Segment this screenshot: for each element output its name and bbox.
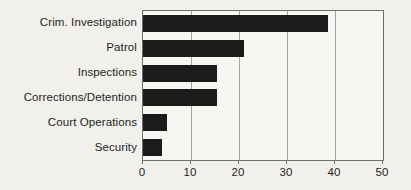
bar [143,40,244,57]
bar [143,89,217,106]
x-tick-mark [286,160,287,164]
x-tick-mark [142,160,143,164]
bar [143,65,217,82]
bar-row [143,61,383,86]
category-label: Inspections [0,60,137,85]
bar [143,114,167,131]
bar [143,15,328,32]
x-tick-mark [238,160,239,164]
category-label: Court Operations [0,109,137,134]
x-tick-mark [334,160,335,164]
x-tick-label: 20 [232,166,245,178]
bar-row [143,11,383,36]
bar-row [143,85,383,110]
category-label: Corrections/Detention [0,84,137,109]
horizontal-bar-chart: Crim. InvestigationPatrolInspectionsCorr… [0,0,411,190]
x-tick-mark [382,160,383,164]
category-label: Patrol [0,35,137,60]
bar-row [143,36,383,61]
x-tick-label: 40 [328,166,341,178]
category-label: Crim. Investigation [0,10,137,35]
x-tick-label: 0 [139,166,145,178]
x-tick-label: 30 [280,166,293,178]
category-axis: Crim. InvestigationPatrolInspectionsCorr… [0,10,137,159]
x-tick-label: 10 [184,166,197,178]
bar-row [143,135,383,160]
x-tick-mark [190,160,191,164]
x-tick-label: 50 [376,166,389,178]
bar-row [143,110,383,135]
bar [143,139,162,156]
plot-area [142,10,384,161]
category-label: Security [0,134,137,159]
x-axis: 01020304050 [0,160,411,188]
